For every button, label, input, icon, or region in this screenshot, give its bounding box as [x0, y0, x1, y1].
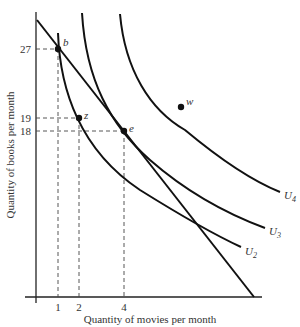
point-e [121, 128, 127, 134]
indifference-curve-u4 [120, 14, 280, 192]
x-tick-2: 2 [76, 301, 82, 313]
x-tick-1: 1 [55, 301, 61, 313]
y-tick-18: 18 [20, 125, 32, 137]
point-b [55, 46, 61, 52]
curve-label-u4: U4 [284, 189, 296, 204]
y-axis-title: Quantity of books per month [4, 91, 16, 219]
point-z [76, 115, 82, 121]
label-z: z [83, 109, 89, 121]
point-w [178, 104, 184, 110]
label-b: b [63, 36, 69, 48]
label-w: w [186, 95, 194, 107]
x-axis-title: Quantity of movies per month [84, 313, 217, 325]
y-tick-27: 27 [20, 43, 32, 55]
curve-label-u2: U2 [245, 245, 257, 260]
x-tick-4: 4 [121, 301, 127, 313]
y-tick-19: 19 [20, 112, 32, 124]
label-e: e [129, 122, 134, 134]
indifference-curve-diagram: b z e w 27 19 18 1 2 4 Quantity of movie… [0, 0, 300, 327]
indifference-curve-u2 [58, 33, 241, 247]
curve-label-u3: U3 [269, 225, 281, 240]
